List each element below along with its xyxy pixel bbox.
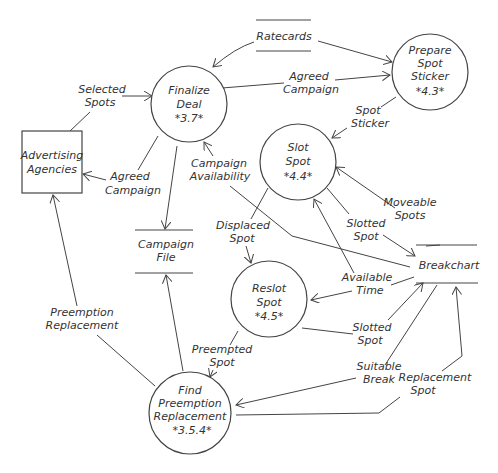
label-available-time-2: Time [356,284,383,297]
flow-finalize-to-prepare-b [335,75,390,80]
process-find-preemption-replacement[interactable]: Find Preemption Replacement *3.5.4* [149,372,231,454]
finalize-label-1: Finalize [168,84,210,97]
label-preemption-replacement-1: Preemption [50,306,113,319]
flow-slotted-spot-a-2 [383,235,415,256]
label-moveable-spots-1: Moveable [383,196,436,209]
flow-displaced-b [246,246,251,263]
slot-label-1: Slot [287,141,309,154]
flow-ratecards-to-prepare [318,41,392,62]
data-store-ratecards[interactable]: Ratecards [256,20,312,51]
data-flow-diagram: Advertising Agencies Finalize Deal *3.7*… [0,0,498,473]
find-label-1: Find [178,384,202,397]
flow-labels: Selected Spots Agreed Campaign Agreed Ca… [46,70,472,397]
flow-find-to-campaignfile [166,275,183,371]
flow-selected-spots-a [70,112,90,131]
flow-suitable-break-b [236,378,356,405]
find-number: *3.5.4* [173,424,212,437]
label-slotted-spot-4: Spot [357,334,383,347]
flow-suitable-break-a [385,285,437,365]
flow-slotted-spot-a-1 [327,188,349,214]
process-prepare-spot-sticker[interactable]: Prepare Spot Sticker *4.3* [392,34,468,110]
prepare-label-3: Sticker [411,70,451,83]
external-entity-advertising-agencies[interactable]: Advertising Agencies [20,131,83,193]
flow-preempted-b [210,370,213,377]
flow-finalize-to-prepare-a [222,83,284,88]
flow-preemption-replacement-b [53,195,77,306]
flow-agreed-to-agencies-a [138,136,158,170]
prepare-label-2: Spot [417,57,443,70]
data-store-campaign-file[interactable]: Campaign File [135,230,194,273]
process-slot-spot[interactable]: Slot Spot *4.4* [260,124,336,200]
flow-available-time-a [391,277,414,285]
process-reslot-spot[interactable]: Reslot Spot *4.5* [231,261,307,337]
agencies-label-1: Advertising [20,149,83,162]
label-displaced-spot-2: Spot [229,232,255,245]
label-agreed-campaign-4: Campaign [283,83,339,96]
label-preempted-spot-1: Preempted [192,343,253,356]
slot-label-2: Spot [285,155,311,168]
label-replacement-spot-2: Spot [410,384,436,397]
label-slotted-spot-1: Slotted [346,217,386,230]
label-selected-spots-2: Spots [85,96,116,109]
process-finalize-deal[interactable]: Finalize Deal *3.7* [151,66,227,142]
finalize-number: *3.7* [175,112,204,125]
label-campaign-availability-2: Availability [189,170,251,183]
label-slotted-spot-2: Spot [353,230,379,243]
label-displaced-spot-1: Displaced [216,219,271,232]
label-agreed-campaign-2: Campaign [105,184,161,197]
breakchart-label: Breakchart [419,259,480,272]
label-suitable-break-2: Break [363,373,396,386]
find-label-2: Preemption [158,397,221,410]
label-available-time-1: Available [341,271,393,284]
label-preempted-spot-2: Spot [209,356,235,369]
flow-ratecards-to-finalize [213,42,254,67]
flow-preemption-replacement-a [97,335,155,386]
campaignfile-label-2: File [156,251,175,264]
agencies-label-2: Agencies [26,163,77,176]
flow-finalize-to-campaignfile [165,146,177,229]
campaignfile-label-1: Campaign [138,238,194,251]
label-campaign-availability-1: Campaign [191,157,247,170]
label-spot-sticker-2: Sticker [351,117,391,130]
label-slotted-spot-3: Slotted [352,321,392,334]
finalize-label-2: Deal [176,98,201,111]
slot-number: *4.4* [284,170,313,183]
reslot-label-1: Reslot [252,282,287,295]
data-store-breakchart[interactable]: Breakchart [416,245,480,283]
label-preemption-replacement-2: Replacement [46,319,119,332]
flow-available-time-b [311,291,352,300]
label-selected-spots-1: Selected [78,83,127,96]
reslot-label-2: Spot [256,296,282,309]
prepare-number: *4.3* [416,85,445,98]
flow-replacement-spot-b [442,287,462,371]
flow-spot-sticker-a [381,97,396,107]
flow-agreed-to-agencies-b [83,174,106,180]
prepare-label-1: Prepare [409,44,452,57]
ratecards-label: Ratecards [256,30,312,43]
flow-slotted-spot-b-1 [302,328,353,334]
label-moveable-spots-2: Spots [395,209,426,222]
label-suitable-break-1: Suitable [357,360,402,373]
reslot-number: *4.5* [255,310,284,323]
label-agreed-campaign-1: Agreed [109,170,151,183]
flow-spot-sticker-b [332,128,347,138]
find-label-3: Replacement [154,410,227,423]
label-agreed-campaign-3: Agreed [288,70,330,83]
label-spot-sticker-1: Spot [355,104,381,117]
label-replacement-spot-1: Replacement [399,371,472,384]
flow-available-to-slot [314,199,354,273]
flow-campaign-availability [204,142,213,156]
